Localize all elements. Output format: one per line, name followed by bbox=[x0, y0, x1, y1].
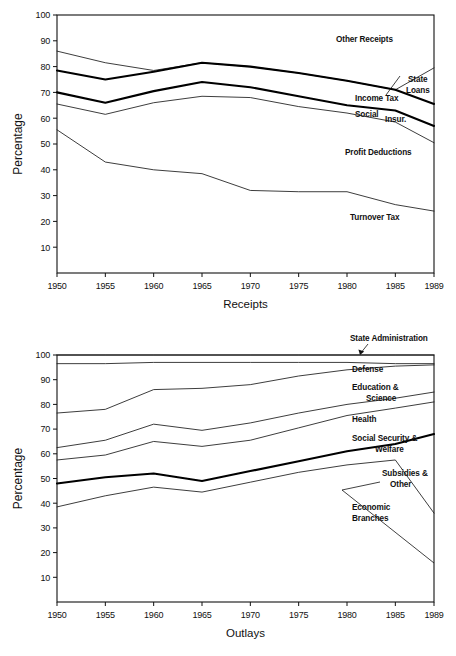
y-tick-label: 70 bbox=[40, 88, 50, 98]
series-line bbox=[57, 96, 434, 142]
x-axis-title: Outlays bbox=[226, 627, 265, 639]
y-tick-label: 10 bbox=[40, 573, 50, 583]
x-tick-label: 1985 bbox=[386, 610, 405, 620]
x-tick-label: 1975 bbox=[289, 281, 308, 291]
series-annotation: Education & bbox=[352, 383, 399, 392]
y-tick-label: 80 bbox=[40, 400, 50, 410]
x-tick-label: 1989 bbox=[424, 610, 443, 620]
x-tick-label: 1955 bbox=[96, 281, 115, 291]
y-tick-label: 50 bbox=[40, 474, 50, 484]
series-annotation: Defense bbox=[352, 365, 384, 374]
state-loans-leader-line bbox=[386, 76, 400, 95]
series-annotation: Health bbox=[352, 415, 377, 424]
x-tick-label: 1975 bbox=[289, 610, 308, 620]
series-annotation: Income Tax bbox=[355, 94, 399, 103]
x-axis-title: Receipts bbox=[223, 298, 268, 310]
y-tick-label: 100 bbox=[36, 350, 51, 360]
x-tick-label: 1989 bbox=[424, 281, 443, 291]
series-annotation: Other bbox=[390, 480, 412, 489]
series-annotation: Economic bbox=[352, 503, 391, 512]
series-annotation: State bbox=[408, 75, 428, 84]
y-tick-label: 30 bbox=[40, 191, 50, 201]
y-tick-label: 70 bbox=[40, 424, 50, 434]
x-tick-label: 1960 bbox=[144, 610, 163, 620]
y-tick-label: 90 bbox=[40, 375, 50, 385]
x-tick-label: 1960 bbox=[144, 281, 163, 291]
y-tick-label: 50 bbox=[40, 139, 50, 149]
y-axis-title: Percentage bbox=[11, 113, 25, 175]
x-tick-label: 1980 bbox=[337, 281, 356, 291]
series-annotation: Profit Deductions bbox=[345, 148, 412, 157]
series-annotation: Insur. bbox=[385, 115, 406, 124]
x-tick-label: 1985 bbox=[386, 281, 405, 291]
x-tick-label: 1955 bbox=[96, 610, 115, 620]
x-tick-label: 1950 bbox=[47, 610, 66, 620]
y-tick-label: 90 bbox=[40, 36, 50, 46]
y-tick-label: 100 bbox=[36, 10, 51, 20]
y-tick-label: 60 bbox=[40, 449, 50, 459]
series-annotation: Other Receipts bbox=[336, 35, 393, 44]
series-annotation: Branches bbox=[352, 514, 389, 523]
series-annotation: Social Security & bbox=[352, 434, 417, 443]
y-tick-label: 20 bbox=[40, 217, 50, 227]
series-annotation: Social bbox=[355, 110, 379, 119]
y-tick-label: 60 bbox=[40, 114, 50, 124]
x-tick-label: 1980 bbox=[337, 610, 356, 620]
outlays-chart-canvas: 1020304050607080901001950195519601965197… bbox=[0, 330, 456, 656]
plot-frame bbox=[57, 15, 434, 273]
y-axis-title: Percentage bbox=[11, 447, 25, 509]
x-tick-label: 1965 bbox=[192, 610, 211, 620]
series-annotation: Science bbox=[366, 394, 397, 403]
x-tick-label: 1970 bbox=[241, 610, 260, 620]
y-tick-label: 40 bbox=[40, 165, 50, 175]
y-tick-label: 10 bbox=[40, 243, 50, 253]
outlays-chart-figure: 1020304050607080901001950195519601965197… bbox=[0, 330, 456, 656]
state-administration-annotation: State Administration bbox=[350, 334, 428, 343]
series-annotation: Turnover Tax bbox=[350, 213, 400, 222]
x-tick-label: 1965 bbox=[192, 281, 211, 291]
series-line bbox=[57, 51, 434, 90]
series-line bbox=[57, 82, 434, 126]
series-annotation: Subsidies & bbox=[382, 469, 428, 478]
series-annotation: Loans bbox=[406, 86, 430, 95]
y-tick-label: 80 bbox=[40, 62, 50, 72]
series-line bbox=[57, 362, 434, 363]
series-annotation: Welfare bbox=[375, 445, 404, 454]
receipts-chart-figure: 1020304050607080901001950195519601965197… bbox=[0, 0, 456, 330]
series-line bbox=[57, 130, 434, 211]
x-tick-label: 1970 bbox=[241, 281, 260, 291]
receipts-chart-canvas: 1020304050607080901001950195519601965197… bbox=[0, 0, 456, 330]
y-tick-label: 40 bbox=[40, 499, 50, 509]
plot-frame bbox=[57, 355, 434, 602]
y-tick-label: 20 bbox=[40, 548, 50, 558]
y-tick-label: 30 bbox=[40, 523, 50, 533]
x-tick-label: 1950 bbox=[47, 281, 66, 291]
